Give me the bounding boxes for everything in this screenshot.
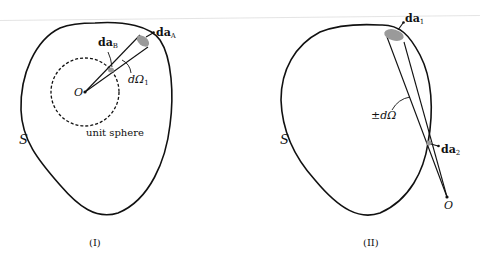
label-unit-sphere: unit sphere [86,128,144,138]
label-da-2-text: da [441,143,456,156]
label-da-2: da2 [441,144,460,157]
figure-ii [281,21,449,215]
caption-i: (I) [89,238,101,248]
label-solid-angle-1: dΩ1 [128,74,149,87]
da-b-leader [108,52,112,67]
da-2-pointer-tip [437,145,440,148]
label-da-1-sub: 1 [420,18,424,26]
label-origin-i: O [74,87,83,98]
figure-i [21,23,172,215]
label-da-b: daB [98,37,118,50]
label-origin-ii: O [444,200,453,211]
label-da-b-sub: B [113,42,118,50]
label-da-b-text: da [98,36,113,49]
label-da-a-sub: A [171,32,176,40]
label-surface-s-ii: S [280,133,289,146]
caption-ii: (II) [363,238,379,248]
label-solid-angle-ii: ±dΩ [371,110,396,121]
da-1-pointer [398,23,403,30]
ray-right-ii [404,42,447,197]
label-da-a-text: da [156,26,171,39]
patch-da-b [108,68,114,73]
da-a-pointer-tip [152,31,155,34]
label-da-1: da1 [405,13,424,26]
patch-da-1 [383,27,405,43]
label-da-a: daA [156,27,176,40]
label-solid-angle-1-text: dΩ [128,73,144,86]
da-a-pointer [146,33,153,37]
surface-s-boundary-ii [281,25,431,216]
origin-point-i [83,90,86,93]
surface-s-boundary [21,23,172,215]
label-da-1-text: da [405,12,420,25]
diagram-canvas [0,0,480,263]
label-da-2-sub: 2 [456,149,460,157]
patch-da-2 [427,141,432,146]
label-surface-s-i: S [19,133,28,146]
label-solid-angle-1-sub: 1 [144,79,148,87]
